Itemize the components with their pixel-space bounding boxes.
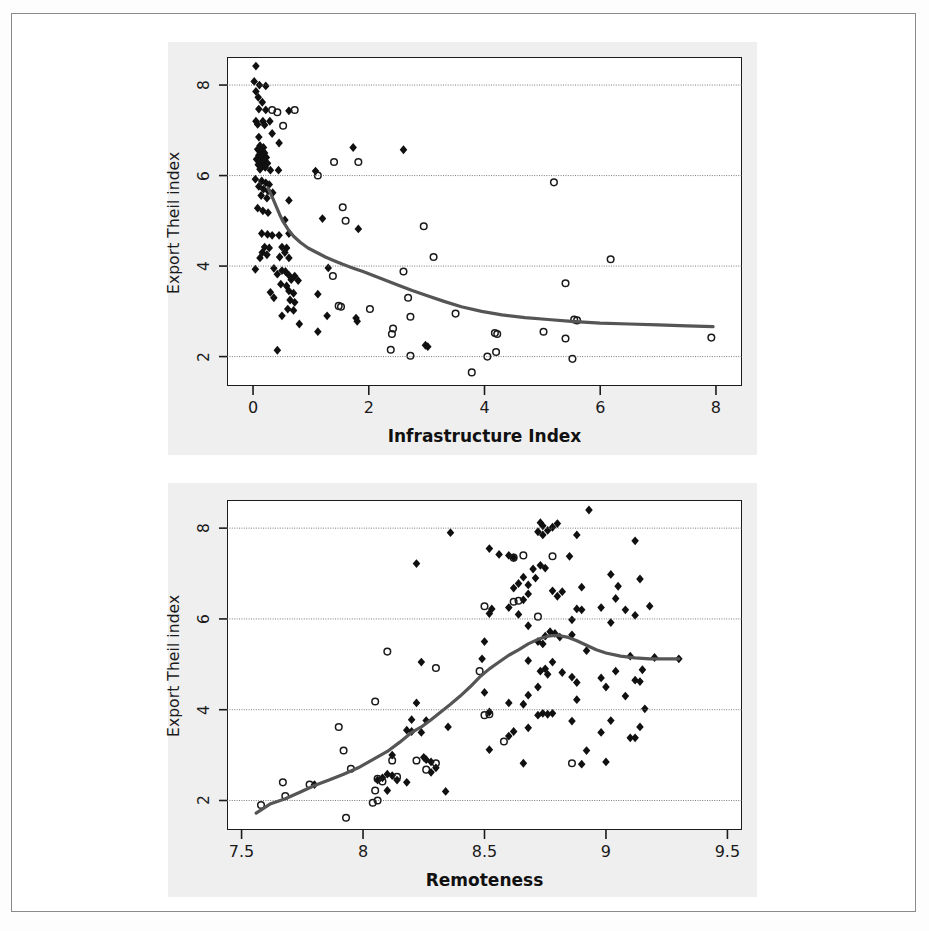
y-tick-label-bottom-6: 6 [194,606,214,632]
x-tick-label-bottom-7-5: 7.5 [217,842,267,861]
figure-page: Export Theil index 8 6 4 2 0 2 4 6 8 Inf… [0,0,929,931]
y-axis-label-bottom: Export Theil index [165,595,183,737]
y-tick-label-bottom-4: 4 [194,697,214,723]
x-axis-label-remoteness: Remoteness [335,870,635,890]
y-tick-label-bottom-2: 2 [194,787,214,813]
x-tick-label-bottom-9: 9 [581,842,631,861]
x-tick-label-bottom-9-5: 9.5 [702,842,752,861]
scatter-plot-remoteness [0,0,929,931]
y-tick-label-bottom-8: 8 [194,515,214,541]
x-tick-label-bottom-8: 8 [338,842,388,861]
x-tick-label-bottom-8-5: 8.5 [460,842,510,861]
